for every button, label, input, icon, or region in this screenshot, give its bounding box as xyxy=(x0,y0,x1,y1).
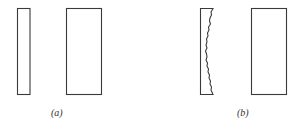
panel-b-rough-bar xyxy=(201,9,214,95)
figure-canvas xyxy=(0,0,303,121)
panel-a-label: (a) xyxy=(51,107,63,118)
panel-a-wide-block xyxy=(67,9,102,95)
panel-a-narrow-bar xyxy=(18,9,31,95)
panel-b-wide-block xyxy=(252,9,287,95)
panel-b-label: (b) xyxy=(237,107,249,118)
